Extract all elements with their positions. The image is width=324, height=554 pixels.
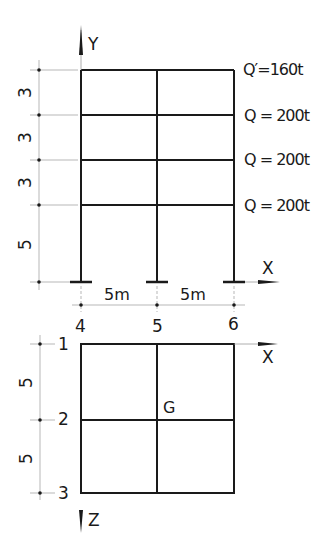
column-line-4: 4: [75, 318, 86, 335]
height-dimension-line: [30, 60, 78, 290]
row-line-3: 3: [58, 485, 69, 502]
plan-grid: [81, 344, 234, 493]
y-axis-label: Y: [88, 36, 98, 53]
load-label-floor-1: Q = 200t: [244, 198, 309, 214]
story-height-1: 5: [17, 239, 34, 250]
load-label-floor-3: Q = 200t: [244, 108, 309, 124]
column-line-5: 5: [152, 318, 163, 335]
z-axis-label: Z: [88, 512, 100, 529]
plan-x-axis-label: X: [262, 349, 274, 366]
row-line-2: 2: [58, 411, 69, 428]
plan-x-axis-arrow-icon: [258, 342, 278, 346]
bay-width-1: 5m: [104, 287, 130, 303]
y-axis-arrow-icon: [79, 25, 83, 55]
load-label-roof: Q′=160t: [243, 62, 302, 78]
story-height-2: 3: [17, 177, 34, 188]
width-dimension-line: [72, 286, 245, 312]
row-spacing-2: 5: [18, 453, 35, 464]
column-line-6: 6: [228, 316, 239, 333]
z-axis-arrow-icon: [79, 510, 83, 533]
centroid-label: G: [163, 400, 175, 416]
load-label-floor-2: Q = 200t: [244, 152, 309, 168]
row-line-1: 1: [58, 336, 69, 353]
story-height-4: 3: [17, 87, 34, 98]
story-height-3: 3: [17, 132, 34, 143]
bay-width-2: 5m: [180, 287, 206, 303]
x-axis-arrow-icon: [258, 280, 280, 284]
structure-drawing: [0, 0, 324, 554]
elevation-frame: [81, 70, 234, 282]
x-axis-label: X: [262, 260, 274, 277]
plan-dimension-line: [30, 335, 55, 500]
row-spacing-1: 5: [18, 377, 35, 388]
